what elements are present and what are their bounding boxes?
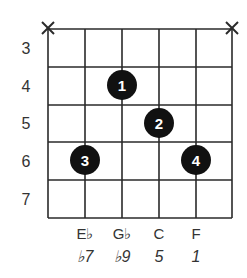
interval-label: 1 xyxy=(181,249,211,265)
muted-string-markers xyxy=(42,22,238,34)
fret-number: 3 xyxy=(16,41,36,57)
finger-dot-3: 3 xyxy=(70,145,100,175)
note-name: G♭ xyxy=(107,226,137,242)
finger-dot-2: 2 xyxy=(144,108,174,138)
interval-label: ♭7 xyxy=(70,249,100,265)
note-name: E♭ xyxy=(70,226,100,242)
fret-number: 6 xyxy=(16,154,36,170)
fret-lines xyxy=(48,29,232,218)
string-lines xyxy=(48,29,232,218)
finger-dot-1: 1 xyxy=(107,70,137,100)
fret-number: 7 xyxy=(16,192,36,208)
finger-dot-4: 4 xyxy=(181,145,211,175)
interval-label: ♭9 xyxy=(107,249,137,265)
note-name: F xyxy=(181,226,211,242)
chord-diagram: 1 2 3 4 3 4 5 6 7 E♭ G♭ C F ♭7 ♭9 5 1 xyxy=(0,0,247,278)
svg-text:2: 2 xyxy=(155,115,163,132)
svg-text:1: 1 xyxy=(118,77,126,94)
svg-text:3: 3 xyxy=(81,152,89,169)
interval-label: 5 xyxy=(144,249,174,265)
fret-number: 4 xyxy=(16,79,36,95)
svg-text:4: 4 xyxy=(192,152,201,169)
note-name: C xyxy=(144,226,174,242)
fret-number: 5 xyxy=(16,116,36,132)
